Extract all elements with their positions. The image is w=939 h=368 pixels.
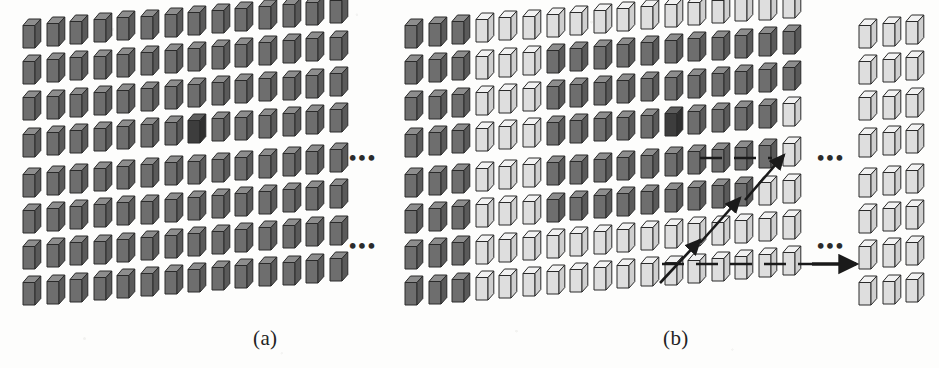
cube-r8-c6	[140, 266, 160, 297]
cube-r3-c9	[211, 75, 231, 106]
cube-r8-c12	[282, 255, 302, 286]
cube-r5-c9	[593, 152, 613, 183]
cube-r1-c2	[46, 16, 66, 47]
cube-r3-c8	[569, 77, 589, 108]
cube-r5-c12	[282, 146, 302, 177]
cube-r1-c3	[451, 14, 471, 45]
cube-r1-c14	[711, 0, 731, 24]
cube-r7-c10	[234, 222, 254, 253]
cube-r2-c1	[858, 54, 878, 85]
cube-r8-c2	[428, 274, 448, 305]
cube-r8-c11	[640, 256, 660, 287]
cube-r4-c6	[140, 117, 160, 148]
cube-r1-c1	[858, 18, 878, 49]
cube-r3-c6	[140, 81, 160, 112]
cube-r5-c5	[498, 159, 518, 190]
cube-r4-c16	[758, 98, 778, 129]
cube-r6-c9	[211, 188, 231, 219]
cube-r4-c13	[687, 104, 707, 135]
cube-r4-c5	[116, 119, 136, 150]
cube-r1-c8	[569, 5, 589, 36]
cube-r8-c1	[22, 275, 42, 306]
cube-r2-c11	[640, 35, 660, 66]
cube-r2-c14	[329, 30, 349, 61]
cube-r5-c2	[46, 165, 66, 196]
cube-r5-c14	[711, 142, 731, 173]
cube-r2-c13	[305, 31, 325, 62]
cube-r1-c5	[116, 10, 136, 41]
cube-r8-c14	[711, 251, 731, 282]
cube-r6-c6	[140, 194, 160, 225]
cube-r2-c8	[187, 41, 207, 72]
cube-r4-c17	[782, 96, 802, 127]
cube-r8-c16	[758, 247, 778, 278]
cube-r5-c11	[258, 148, 278, 179]
cube-r7-c9	[593, 224, 613, 255]
cube-r6-c1	[22, 203, 42, 234]
cube-r7-c7	[164, 228, 184, 259]
cube-r1-c13	[305, 0, 325, 26]
cube-r6-c10	[234, 186, 254, 217]
cube-r5-c5	[116, 159, 136, 190]
cube-r7-c14	[329, 215, 349, 246]
cube-r3-c6	[522, 81, 542, 112]
cube-r4-c2	[46, 125, 66, 156]
cube-r8-c12	[664, 255, 684, 286]
cube-r4-c11	[640, 108, 660, 139]
cube-r1-c17	[782, 0, 802, 19]
cube-r2-c16	[758, 26, 778, 57]
cube-r6-c2	[46, 201, 66, 232]
cube-r8-c3	[905, 272, 925, 303]
cube-r1-c16	[758, 0, 778, 21]
cube-r1-c9	[211, 3, 231, 34]
cube-r7-c4	[93, 234, 113, 265]
cube-r5-c1	[404, 167, 424, 198]
cube-r2-c2	[882, 52, 902, 83]
cube-r6-c1	[404, 203, 424, 234]
cube-r8-c8	[569, 262, 589, 293]
cube-r8-c4	[475, 270, 495, 301]
cube-r4-c2	[882, 125, 902, 156]
cube-r4-c4	[475, 121, 495, 152]
cube-r1-c12	[664, 0, 684, 28]
cube-r3-c11	[640, 71, 660, 102]
cube-r7-c3	[451, 235, 471, 266]
cube-r2-c9	[211, 39, 231, 70]
cube-r7-c7	[546, 228, 566, 259]
cube-r3-c16	[758, 62, 778, 93]
cube-r6-c14	[329, 178, 349, 209]
cube-r8-c10	[234, 258, 254, 289]
cube-r2-c12	[664, 33, 684, 64]
cube-r7-c1	[22, 239, 42, 270]
cube-r7-c14	[711, 215, 731, 246]
cube-r8-c1	[858, 275, 878, 306]
cube-r1-c9	[593, 3, 613, 34]
cube-r1-c6	[522, 9, 542, 40]
cube-r7-c9	[211, 224, 231, 255]
cube-r3-c14	[329, 66, 349, 97]
cube-r2-c4	[93, 49, 113, 80]
cube-r6-c5	[498, 195, 518, 226]
cube-r2-c1	[404, 54, 424, 85]
cube-r8-c2	[882, 274, 902, 305]
cube-r6-c14	[711, 178, 731, 209]
cube-r5-c12	[664, 146, 684, 177]
cube-r7-c8	[187, 226, 207, 257]
cube-r1-c4	[93, 12, 113, 43]
cube-r4-c9	[593, 111, 613, 142]
cube-r4-c3	[69, 123, 89, 154]
cube-r1-c10	[616, 1, 636, 32]
cube-r5-c10	[616, 150, 636, 181]
cube-r1-c5	[498, 10, 518, 41]
cube-r6-c15	[734, 176, 754, 207]
cube-r3-c1	[22, 90, 42, 121]
cube-r7-c2	[46, 237, 66, 268]
panel-b-label: (b)	[663, 326, 689, 351]
cube-r2-c10	[616, 37, 636, 68]
cube-r6-c5	[116, 195, 136, 226]
cube-r4-c8	[187, 113, 207, 144]
cube-r3-c7	[164, 79, 184, 110]
cube-r8-c7	[546, 264, 566, 295]
cube-r1-c7	[546, 7, 566, 38]
cube-r4-c1	[22, 127, 42, 158]
